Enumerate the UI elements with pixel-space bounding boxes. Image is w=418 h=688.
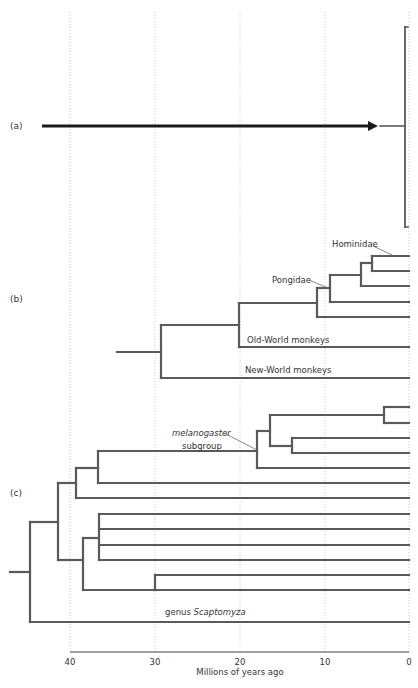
genus-scaptomyza-label: genus Scaptomyza <box>165 607 246 617</box>
pongidae-label: Pongidae <box>272 275 311 285</box>
arrowhead-icon <box>368 121 378 131</box>
panel-c-tree <box>10 407 409 622</box>
melanogaster-label: melanogaster <box>172 428 231 438</box>
axis-tick-label: 20 <box>235 657 246 667</box>
axis-tick-label: 0 <box>406 657 411 667</box>
panel-label-a: (a) <box>10 121 23 131</box>
phylogeny-figure: 403020100 (a) (b) (c) Hominidae Pongidae… <box>0 0 418 688</box>
hominidae-label: Hominidae <box>332 239 378 249</box>
panel-label-b: (b) <box>10 294 23 304</box>
axis-title: Millions of years ago <box>196 667 283 677</box>
panel-label-c: (c) <box>10 488 22 498</box>
label-leader-line <box>309 280 328 288</box>
subgroup-label: subgroup <box>182 441 222 451</box>
axis-tick-label: 10 <box>320 657 331 667</box>
axis-tick-label: 40 <box>65 657 76 667</box>
axis-tick-label: 30 <box>150 657 161 667</box>
panel-a-arrow <box>42 27 408 227</box>
old-world-monkeys-label: Old-World monkeys <box>247 335 330 345</box>
panel-b-tree <box>117 246 409 378</box>
time-axis: 403020100 <box>65 652 412 667</box>
new-world-monkeys-label: New-World monkeys <box>245 365 332 375</box>
